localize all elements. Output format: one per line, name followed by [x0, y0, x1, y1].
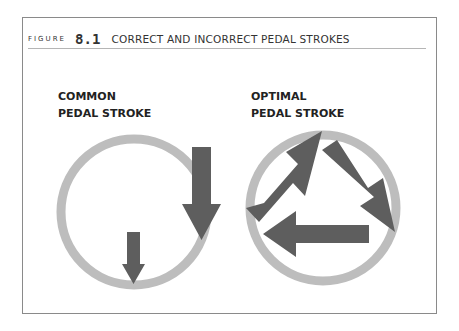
- common-stroke-graphic: [61, 139, 221, 285]
- optimal-stroke-graphic: [246, 131, 396, 281]
- down-right-arrow-icon: [322, 140, 395, 232]
- pedal-stroke-diagram: [0, 0, 459, 331]
- small-down-arrow-icon: [122, 232, 145, 284]
- left-arrow-icon: [263, 211, 369, 257]
